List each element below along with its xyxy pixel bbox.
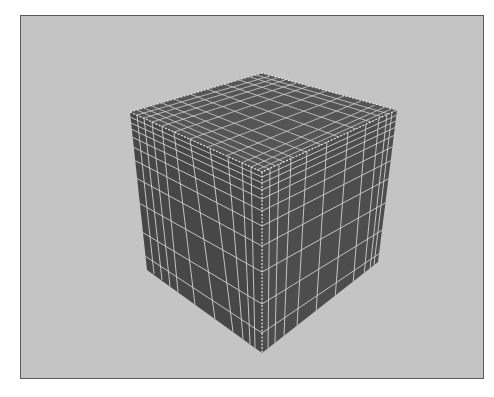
cube-render	[0, 0, 494, 397]
